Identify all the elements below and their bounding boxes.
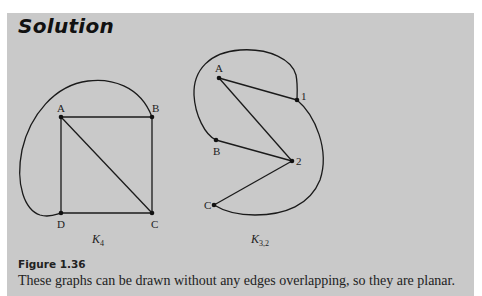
planar-graphs-figure: A B C D A B C 1 2: [0, 0, 482, 296]
k4-graph: [20, 80, 152, 216]
node-label-a: A: [215, 62, 223, 74]
edge-b-d-curve: [20, 80, 152, 216]
node-label-a: A: [57, 102, 65, 114]
edge-c-2: [214, 161, 292, 205]
node-label-c: C: [151, 218, 158, 230]
node-b: [214, 138, 219, 143]
edge-c-1-curve: [214, 100, 323, 215]
node-label-b: B: [152, 102, 159, 114]
node-label-1: 1: [301, 90, 307, 102]
figure-caption: These graphs can be drawn without any ed…: [18, 273, 455, 289]
node-b: [150, 115, 155, 120]
figure-label: Figure 1.36: [18, 258, 86, 270]
edge-b-1-curve: [194, 50, 297, 140]
edge-b-2: [216, 140, 292, 161]
node-a: [59, 115, 64, 120]
edge-a-2: [219, 78, 292, 161]
node-1: [295, 98, 300, 103]
node-d: [59, 211, 64, 216]
edge-a-c: [61, 117, 152, 213]
node-c: [150, 211, 155, 216]
node-c: [212, 203, 217, 208]
node-2: [290, 159, 295, 164]
k32-caption: K3,2: [251, 232, 269, 248]
node-label-d: D: [57, 218, 65, 230]
node-label-c: C: [204, 199, 211, 211]
edge-a-1: [219, 78, 297, 100]
k4-caption: K4: [92, 232, 104, 248]
k32-graph: [194, 50, 323, 215]
node-a: [217, 76, 222, 81]
node-label-2: 2: [296, 155, 302, 167]
node-label-b: B: [213, 145, 220, 157]
